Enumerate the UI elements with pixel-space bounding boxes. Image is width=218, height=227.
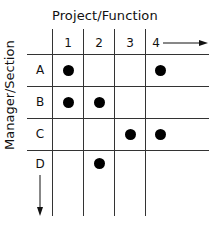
row-header: B xyxy=(30,95,50,109)
grid-vline xyxy=(83,29,84,216)
marker-dot-D2 xyxy=(94,158,105,169)
down-arrow-icon xyxy=(35,175,45,220)
grid-vline xyxy=(52,29,53,216)
column-header: 2 xyxy=(89,36,109,50)
y-axis-title: Manager/Section xyxy=(2,40,17,150)
column-header: 3 xyxy=(120,36,140,50)
marker-dot-B1 xyxy=(63,97,74,108)
grid-hline xyxy=(27,118,209,119)
grid-vline xyxy=(114,29,115,216)
grid-vline xyxy=(145,29,146,216)
row-header: A xyxy=(30,63,50,77)
marker-dot-A1 xyxy=(63,65,74,76)
grid-hline xyxy=(27,150,209,151)
marker-dot-C3 xyxy=(125,129,136,140)
right-arrow-icon xyxy=(163,39,213,49)
x-axis-title: Project/Function xyxy=(52,8,158,23)
grid-hline xyxy=(27,86,209,87)
marker-dot-C4 xyxy=(155,129,166,140)
row-header: C xyxy=(30,127,50,141)
row-header: D xyxy=(30,157,50,171)
marker-dot-B2 xyxy=(94,97,105,108)
column-header: 1 xyxy=(58,36,78,50)
grid-hline xyxy=(27,54,209,55)
marker-dot-A4 xyxy=(155,65,166,76)
